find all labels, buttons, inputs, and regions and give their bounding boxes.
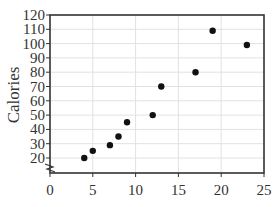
- data-point: [107, 142, 113, 148]
- y-tick-label: 30: [30, 136, 45, 152]
- y-axis-title: Calories: [4, 67, 23, 124]
- y-tick-label: 70: [30, 79, 45, 95]
- y-tick-label: 90: [30, 50, 45, 66]
- x-tick-label: 15: [171, 182, 186, 198]
- data-point: [81, 155, 87, 161]
- x-tick-label: 5: [89, 182, 97, 198]
- data-point: [90, 148, 96, 154]
- y-tick-label: 20: [30, 150, 45, 166]
- y-tick-label: 80: [30, 64, 45, 80]
- x-tick-label: 0: [46, 182, 54, 198]
- scatter-chart: 2030405060708090100110120 0510152025 Cal…: [0, 0, 277, 207]
- data-point: [158, 83, 164, 89]
- data-point: [124, 119, 130, 125]
- y-axis: 2030405060708090100110120: [23, 7, 51, 166]
- y-tick-label: 50: [30, 107, 45, 123]
- y-tick-label: 40: [30, 121, 45, 137]
- data-point: [150, 112, 156, 118]
- data-point: [244, 42, 250, 48]
- data-point: [192, 69, 198, 75]
- y-tick-label: 100: [23, 36, 46, 52]
- data-point: [115, 133, 121, 139]
- y-tick-label: 60: [30, 93, 45, 109]
- y-tick-label: 110: [23, 21, 45, 37]
- plot-frame: [50, 15, 264, 173]
- gridlines: [50, 15, 264, 173]
- x-tick-label: 20: [214, 182, 229, 198]
- data-point: [209, 28, 215, 34]
- y-tick-label: 120: [23, 7, 46, 23]
- x-tick-label: 25: [257, 182, 272, 198]
- x-axis: 0510152025: [46, 173, 271, 198]
- data-points: [81, 28, 250, 162]
- x-tick-label: 10: [128, 182, 143, 198]
